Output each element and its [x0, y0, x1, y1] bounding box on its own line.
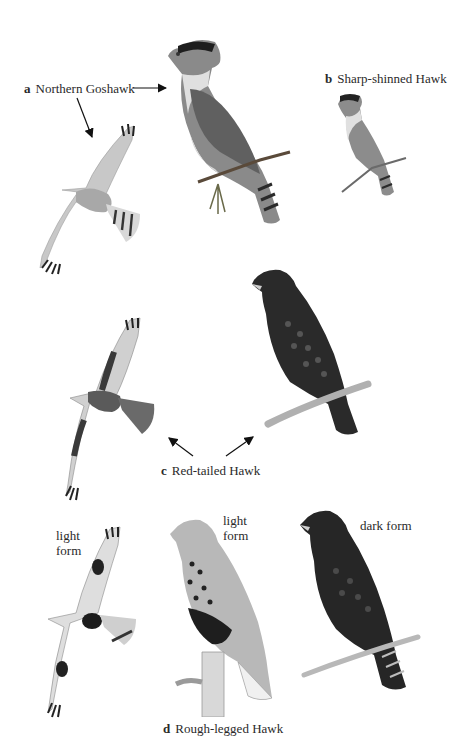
goshawk-flight-illustration [36, 122, 146, 277]
rough-legged-hawk-light-perched-illustration [168, 512, 278, 717]
goshawk-perched-illustration [160, 34, 300, 234]
arrow-redtail-flight [169, 438, 193, 456]
rough-legged-hawk-dark-perched-illustration [296, 505, 421, 695]
rough-legged-hawk-flight-illustration [40, 523, 140, 718]
red-tailed-hawk-perched-illustration [248, 264, 373, 439]
arrow-redtail-perched [226, 437, 253, 456]
red-tailed-hawk-flight-illustration [62, 316, 167, 501]
sharp-shinned-hawk-illustration [332, 88, 412, 203]
